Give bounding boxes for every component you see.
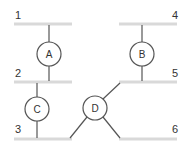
node-label-c: C [33, 104, 40, 115]
node-label-a: A [46, 49, 53, 60]
node-label-d: D [91, 103, 98, 114]
node-b: B [130, 42, 154, 66]
bus-1: 1 [14, 9, 72, 24]
bus-6: 6 [119, 123, 178, 139]
bus-3: 3 [14, 123, 72, 139]
bus-label-2: 2 [15, 67, 21, 79]
node-d: D [83, 96, 107, 120]
bus-label-6: 6 [172, 123, 178, 135]
bus-label-1: 1 [15, 9, 21, 21]
node-a: A [37, 42, 61, 66]
bus-label-3: 3 [15, 123, 21, 135]
bus-label-5: 5 [172, 67, 178, 79]
network-diagram: 1 4 2 5 3 6 A B C [0, 0, 194, 152]
bus-2: 2 [14, 67, 72, 82]
bus-label-4: 4 [172, 9, 178, 21]
node-label-b: B [139, 49, 146, 60]
bus-5: 5 [119, 67, 178, 82]
bus-4: 4 [119, 9, 178, 24]
node-c: C [25, 97, 49, 121]
